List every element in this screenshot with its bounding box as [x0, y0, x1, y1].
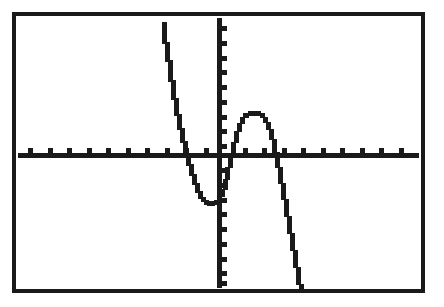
y-axis-line	[217, 18, 222, 288]
graph-canvas[interactable]	[16, 16, 421, 289]
calculator-screenshot	[0, 0, 444, 307]
x-axis-ticks	[28, 148, 404, 153]
calculator-screen-frame	[12, 12, 425, 293]
graph-plot-area[interactable]	[16, 16, 421, 289]
